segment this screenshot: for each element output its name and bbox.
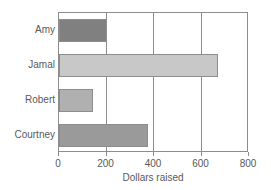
category-label-jamal: Jamal [0, 60, 55, 70]
bar-band [59, 83, 247, 118]
x-tick-mark-800 [248, 152, 249, 156]
category-label-amy: Amy [0, 25, 55, 35]
x-tick-label-600: 600 [181, 158, 221, 169]
category-label-courtney: Courtney [0, 130, 55, 140]
category-label-robert: Robert [0, 95, 55, 105]
bar-band [59, 48, 247, 83]
bar-jamal [59, 54, 218, 77]
plot-area [58, 12, 248, 152]
bar-band [59, 118, 247, 153]
x-tick-mark-400 [153, 152, 154, 156]
x-tick-mark-600 [201, 152, 202, 156]
bar-chart: AmyJamalRobertCourtney0200400600800 Doll… [0, 0, 271, 190]
x-axis-title: Dollars raised [58, 172, 248, 183]
x-tick-mark-0 [58, 152, 59, 156]
bar-amy [59, 19, 107, 42]
bar-courtney [59, 124, 148, 147]
bar-band [59, 13, 247, 48]
x-tick-label-800: 800 [228, 158, 268, 169]
x-tick-mark-200 [106, 152, 107, 156]
x-tick-label-0: 0 [38, 158, 78, 169]
bar-robert [59, 89, 93, 112]
x-tick-label-200: 200 [86, 158, 126, 169]
x-tick-label-400: 400 [133, 158, 173, 169]
